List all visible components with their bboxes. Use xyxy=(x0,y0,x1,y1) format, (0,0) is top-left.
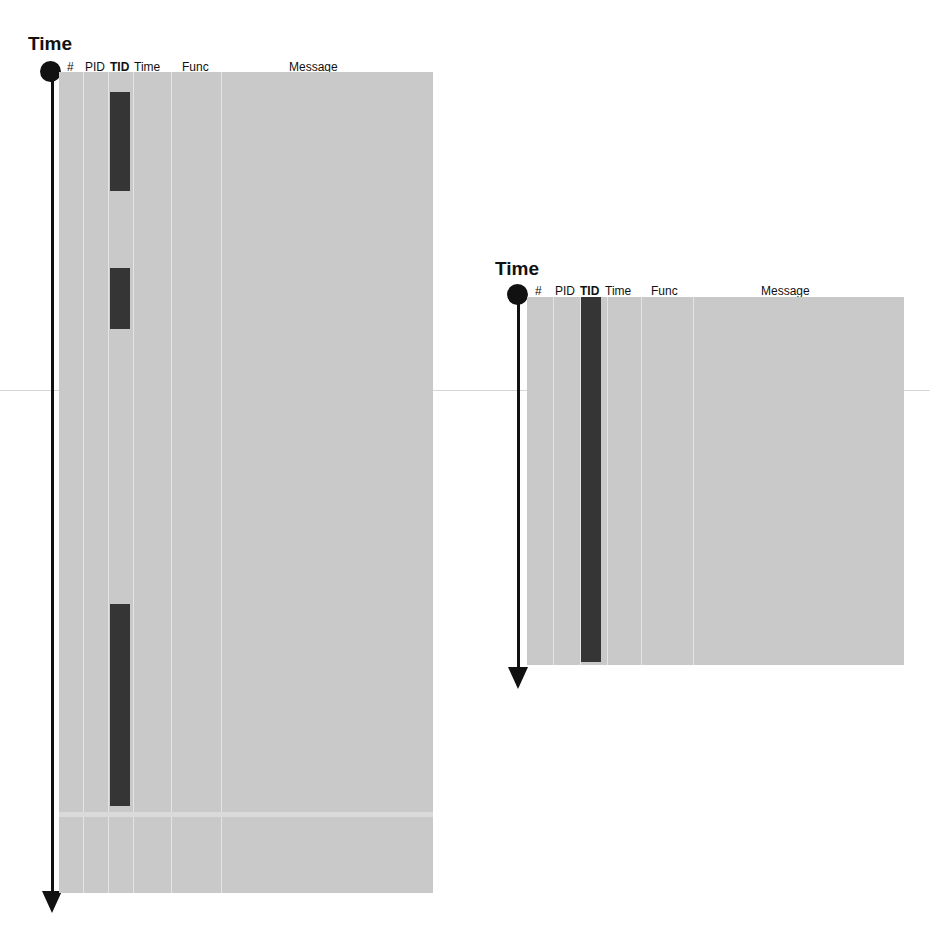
time-axis-label: Time xyxy=(495,259,539,279)
tid-active-block xyxy=(110,92,130,191)
arrow-down-icon xyxy=(508,667,528,689)
timeline-start-dot xyxy=(40,61,61,82)
column-header-pid: PID xyxy=(555,285,575,297)
column-divider xyxy=(607,297,608,665)
column-divider xyxy=(221,72,222,893)
timeline-start-dot xyxy=(507,284,528,305)
tid-active-block xyxy=(581,297,601,662)
column-header-time: Time xyxy=(605,285,631,297)
arrow-down-icon xyxy=(42,891,62,913)
time-axis-line xyxy=(517,297,520,667)
light-row-band xyxy=(59,812,433,817)
column-divider xyxy=(108,72,109,893)
column-divider xyxy=(171,72,172,893)
column-divider xyxy=(553,297,554,665)
time-axis-label: Time xyxy=(28,34,72,54)
tid-active-block xyxy=(110,268,130,329)
column-divider xyxy=(83,72,84,893)
tid-active-block xyxy=(110,604,130,806)
column-header-number: # xyxy=(535,285,542,297)
column-header-message: Message xyxy=(761,285,810,297)
time-axis-line xyxy=(51,72,54,892)
log-table-panel xyxy=(527,297,904,665)
column-divider xyxy=(641,297,642,665)
column-header-func: Func xyxy=(651,285,678,297)
log-table-panel xyxy=(59,72,433,893)
column-divider xyxy=(133,72,134,893)
column-divider xyxy=(693,297,694,665)
column-header-tid: TID xyxy=(580,285,599,297)
